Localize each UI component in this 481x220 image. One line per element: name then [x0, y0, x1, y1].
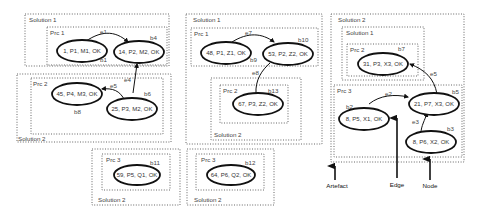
prc-1-label-2: Prc 1	[194, 30, 209, 37]
badge-b1: b1	[100, 56, 107, 63]
prc-3-label-2b: Prc 3	[201, 156, 216, 163]
edge-label-e2: e2	[385, 90, 392, 97]
solution-2-label: Solution 2	[18, 135, 46, 142]
solution-1-label-2: Solution 1	[193, 16, 221, 23]
edge-e3	[421, 113, 427, 133]
edge-label-e3: e3	[412, 118, 419, 125]
prc-3-label: Prc 3	[106, 156, 121, 163]
badge-b4: b4	[150, 34, 157, 41]
badge-b13: b13	[268, 87, 279, 94]
badge-b8: b8	[74, 108, 81, 115]
badge-b6: b6	[144, 90, 151, 97]
badge-b9: b9	[250, 56, 257, 63]
process-diagram: Solution 1 Prc 1 Solution 2 Prc 2 e1 e4 …	[0, 0, 481, 220]
node-8-p5-label: 8, P5, X1, OK	[346, 116, 383, 122]
edge-label-e5: e5	[110, 82, 117, 89]
legend-edge: Edge	[390, 181, 405, 188]
node-48-label: 48, P1, Z1, OK	[206, 50, 246, 56]
panel-1b: Solution 2 Prc 3 59, P5, Q1, OK b11	[92, 149, 180, 205]
edge-label-e8: e8	[252, 69, 259, 76]
legend-artefact: Artefact	[326, 182, 348, 189]
prc-2-label-2: Prc 2	[223, 87, 238, 94]
node-14-label: 14, P2, M2, OK	[118, 49, 159, 55]
panel-2: Solution 1 Prc 1 Solution 2 Prc 2 e7 e8 …	[186, 14, 322, 144]
prc-2-label: Prc 2	[33, 80, 48, 87]
prc-1-label: Prc 1	[50, 29, 65, 36]
node-53-label: 53, P2, Z2, OK	[268, 51, 308, 57]
edge-e6	[410, 64, 437, 94]
node-21-label: 21, P7, X3, OK	[414, 101, 454, 107]
panel-1: Solution 1 Prc 1 Solution 2 Prc 2 e1 e4 …	[17, 14, 171, 142]
edge-label-e7: e7	[245, 29, 252, 36]
badge-b5: b5	[452, 88, 459, 95]
node-64-label: 64, P6, Q2, OK	[211, 172, 252, 178]
node-45-label: 45, P4, M3, OK	[56, 91, 97, 97]
prc-2-label-3: Prc 2	[350, 46, 365, 53]
badge-b12: b12	[245, 159, 256, 166]
edge-e4	[133, 64, 137, 93]
badge-b2: b2	[346, 103, 353, 110]
badge-b7: b7	[398, 45, 405, 52]
edge-label-e1: e1	[100, 28, 107, 35]
legend-node: Node	[423, 182, 438, 189]
solution-2-label-2: Solution 2	[214, 131, 242, 138]
solution-2-label-3: Solution 2	[338, 16, 366, 23]
node-25-label: 25, P3, M2, OK	[111, 106, 152, 112]
edge-e7	[232, 35, 274, 42]
solution-1-label: Solution 1	[29, 16, 57, 23]
solution-2-label-b: Solution 2	[98, 196, 126, 203]
solution-2-label-2b: Solution 2	[194, 196, 222, 203]
node-59-label: 59, P5, Q1, OK	[117, 172, 158, 178]
node-8-p6-label: 8, P6, X2, OK	[413, 139, 450, 145]
solution-1-label-3: Solution 1	[346, 29, 374, 36]
node-1-label: 1, P1, M1, OK	[63, 48, 101, 54]
badge-b3: b3	[447, 125, 454, 132]
node-67-label: 67, P3, Z2, OK	[238, 101, 278, 107]
badge-b11: b11	[150, 159, 160, 166]
prc-3-label-3: Prc 3	[337, 87, 352, 94]
node-31-label: 31, P3, X3, OK	[363, 61, 403, 67]
edge-label-e4: e4	[124, 76, 131, 83]
badge-b10: b10	[298, 36, 309, 43]
panel-2b: Solution 2 Prc 3 64, P6, Q2, OK b12	[187, 149, 274, 205]
edge-label-e6: e5	[430, 70, 437, 77]
